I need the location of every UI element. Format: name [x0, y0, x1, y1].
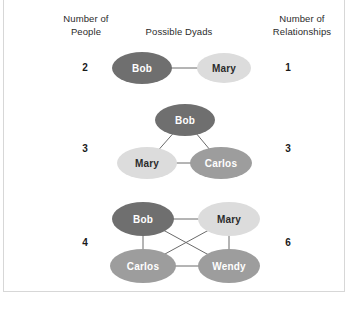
dyads-figure: Number of People Possible Dyads Number o…	[0, 0, 352, 328]
column-header-possible-dyads: Possible Dyads	[120, 26, 238, 39]
person-node-label: Bob	[175, 115, 195, 126]
person-node-label: Mary	[217, 214, 241, 225]
person-node-wendy: Wendy	[198, 249, 260, 283]
person-node-mary: Mary	[197, 53, 251, 83]
person-node-carlos: Carlos	[190, 147, 252, 179]
person-node-label: Bob	[132, 63, 152, 74]
person-node-bob: Bob	[112, 202, 174, 236]
person-node-label: Mary	[212, 63, 236, 74]
people-count-value: 2	[73, 62, 97, 73]
person-node-label: Mary	[135, 158, 159, 169]
person-node-bob: Bob	[155, 104, 215, 136]
person-node-carlos: Carlos	[110, 249, 176, 283]
relationship-count-value: 3	[276, 143, 300, 154]
people-count-value: 3	[73, 143, 97, 154]
person-node-mary: Mary	[117, 147, 177, 179]
relationship-count-value: 6	[276, 237, 300, 248]
person-node-label: Carlos	[205, 158, 237, 169]
person-node-label: Carlos	[127, 261, 159, 272]
person-node-mary: Mary	[198, 202, 260, 236]
column-header-number-of-relationships: Number of Relationships	[256, 13, 348, 38]
person-node-bob: Bob	[112, 52, 172, 84]
relationship-count-value: 1	[276, 62, 300, 73]
people-count-value: 4	[73, 237, 97, 248]
person-node-label: Wendy	[212, 261, 246, 272]
person-node-label: Bob	[133, 214, 153, 225]
